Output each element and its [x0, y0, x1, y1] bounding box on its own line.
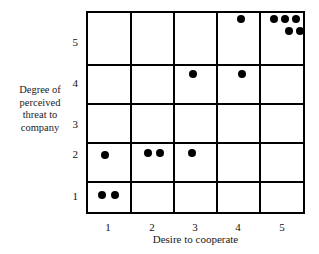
- data-point: [156, 149, 164, 157]
- data-point: [144, 149, 152, 157]
- data-point: [189, 70, 197, 78]
- data-point: [111, 191, 119, 199]
- grid-hline: [88, 142, 303, 144]
- x-axis-title: Desire to cooperate: [86, 233, 305, 245]
- y-tick-label: 4: [62, 78, 78, 89]
- grid-hline: [88, 64, 303, 66]
- x-tick-label: 2: [142, 222, 162, 233]
- data-point: [296, 27, 304, 35]
- y-tick-label: 1: [62, 191, 78, 202]
- grid-hline: [88, 103, 303, 105]
- data-point: [98, 191, 106, 199]
- y-tick-label: 5: [62, 37, 78, 48]
- data-point: [188, 149, 196, 157]
- x-tick-label: 5: [272, 222, 292, 233]
- x-tick-label: 4: [228, 222, 248, 233]
- x-tick-label: 1: [98, 222, 118, 233]
- data-point: [285, 27, 293, 35]
- x-tick-label: 3: [185, 222, 205, 233]
- data-point: [237, 15, 245, 23]
- y-tick-label: 3: [62, 119, 78, 130]
- y-tick-label: 2: [62, 149, 78, 160]
- data-point: [281, 15, 289, 23]
- grid-hline: [88, 181, 303, 183]
- data-point: [292, 15, 300, 23]
- data-point: [101, 151, 109, 159]
- y-axis-title-line-2: perceived: [2, 97, 78, 110]
- data-point: [238, 70, 246, 78]
- scatter-plot-figure: Degree of perceived threat to company 5 …: [0, 0, 319, 254]
- plot-area: [86, 11, 305, 214]
- data-point: [270, 15, 278, 23]
